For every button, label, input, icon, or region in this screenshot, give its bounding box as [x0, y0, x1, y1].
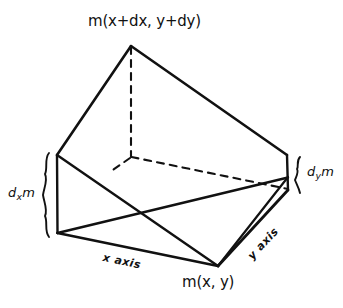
label-dx-m-suffix: m: [22, 185, 35, 200]
label-bottom-vertex: m(x, y): [182, 275, 234, 290]
diagram-background: [0, 0, 343, 308]
edge-left-vertical: [57, 155, 58, 233]
edge-right-vertical: [287, 155, 288, 190]
label-dx-m: dxm: [8, 186, 35, 201]
mass-element-diagram: [0, 0, 343, 308]
label-dy-m: dym: [307, 165, 334, 180]
label-dy-m-suffix: m: [321, 164, 334, 179]
label-top-vertex: m(x+dx, y+dy): [88, 14, 201, 29]
